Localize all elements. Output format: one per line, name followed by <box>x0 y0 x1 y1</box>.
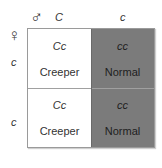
female-symbol-icon: ♀ <box>8 27 21 44</box>
cell-top-left: Cc Creeper <box>28 29 91 88</box>
phenotype: Normal <box>91 66 154 78</box>
male-allele-1: C <box>55 11 63 23</box>
phenotype: Creeper <box>28 125 91 137</box>
genotype: cc <box>91 40 154 52</box>
female-allele-1: c <box>11 56 17 68</box>
phenotype: Normal <box>91 125 154 137</box>
male-allele-2: c <box>120 11 126 23</box>
male-symbol-icon: ♂ <box>30 9 43 26</box>
cell-top-right: cc Normal <box>91 29 154 88</box>
punnett-grid: Cc Creeper cc Normal Cc Creeper cc Norma… <box>27 28 155 148</box>
genotype: Cc <box>28 40 91 52</box>
cell-bottom-left: Cc Creeper <box>28 88 91 147</box>
genotype: cc <box>91 99 154 111</box>
female-allele-2: c <box>11 116 17 128</box>
genotype: Cc <box>28 99 91 111</box>
vertical-divider <box>91 29 92 147</box>
phenotype: Creeper <box>28 66 91 78</box>
cell-bottom-right: cc Normal <box>91 88 154 147</box>
